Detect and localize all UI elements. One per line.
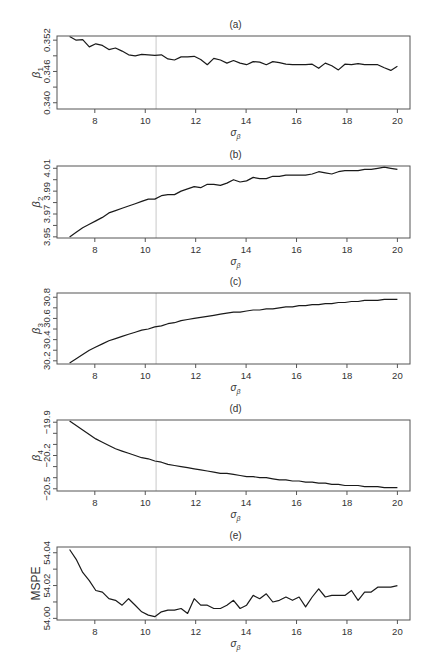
- plot-box: [57, 36, 410, 109]
- x-tick-label: 18: [342, 115, 353, 126]
- x-tick-label: 16: [291, 497, 302, 508]
- x-tick-label: 18: [342, 626, 353, 637]
- x-tick-label: 8: [92, 497, 97, 508]
- x-tick-label: 12: [190, 497, 201, 508]
- panel-title: (e): [229, 530, 241, 541]
- x-tick-label: 14: [241, 497, 252, 508]
- figure-caption: [0, 660, 434, 667]
- data-line: [70, 37, 398, 71]
- panel-e: (e)8101214161820σβ54.0054.0254.04MSPE: [29, 530, 410, 652]
- x-tick-label: 16: [291, 115, 302, 126]
- y-tick-label: 54.00: [41, 606, 52, 630]
- x-tick-label: 20: [392, 244, 403, 255]
- plot-box: [57, 420, 410, 491]
- figure: (a)8101214161820σβ0.3400.3460.352β1(b)81…: [0, 0, 434, 667]
- panel-title: (d): [229, 403, 241, 414]
- y-tick-label: −20.5: [41, 477, 52, 501]
- x-tick-label: 16: [291, 626, 302, 637]
- y-tick-label: 30.8: [41, 288, 52, 307]
- x-axis-label: σβ: [230, 256, 240, 270]
- panel-title: (a): [229, 19, 241, 30]
- x-tick-label: 20: [392, 497, 403, 508]
- x-tick-label: 10: [140, 497, 151, 508]
- y-tick-label: −19.9: [41, 410, 52, 434]
- x-axis-label: σβ: [230, 638, 240, 652]
- y-tick-label: 30.4: [41, 330, 52, 349]
- x-axis-label: σβ: [230, 127, 240, 141]
- x-tick-label: 8: [92, 115, 97, 126]
- plot-box: [57, 166, 410, 238]
- x-tick-label: 16: [291, 244, 302, 255]
- panel-b: (b)8101214161820σβ3.953.973.994.01β2: [30, 149, 410, 270]
- panel-d: (d)8101214161820σβ−20.5−20.2−19.9β4: [30, 403, 410, 523]
- x-tick-label: 10: [140, 626, 151, 637]
- x-tick-label: 10: [140, 370, 151, 381]
- x-tick-label: 12: [190, 115, 201, 126]
- x-tick-label: 14: [241, 115, 252, 126]
- x-tick-label: 18: [342, 244, 353, 255]
- y-axis-label: MSPE: [29, 566, 43, 600]
- x-tick-label: 10: [140, 244, 151, 255]
- x-tick-label: 20: [392, 370, 403, 381]
- y-tick-label: 3.95: [41, 228, 52, 247]
- x-tick-label: 8: [92, 370, 97, 381]
- x-tick-label: 16: [291, 370, 302, 381]
- panel-title: (b): [229, 149, 241, 160]
- x-tick-label: 12: [190, 626, 201, 637]
- panel-c: (c)8101214161820σβ30.230.430.630.8β3: [30, 276, 410, 396]
- x-tick-label: 8: [92, 244, 97, 255]
- x-tick-label: 8: [92, 626, 97, 637]
- y-tick-label: 54.04: [41, 541, 52, 565]
- x-tick-label: 18: [342, 370, 353, 381]
- data-line: [70, 299, 398, 363]
- x-tick-label: 20: [392, 115, 403, 126]
- y-tick-label: 0.340: [41, 91, 52, 115]
- y-tick-label: 3.97: [41, 205, 52, 224]
- y-tick-label: 30.2: [41, 352, 52, 371]
- data-line: [70, 421, 398, 488]
- x-tick-label: 12: [190, 244, 201, 255]
- y-tick-label: 0.352: [41, 28, 52, 52]
- x-axis-label: σβ: [230, 382, 240, 396]
- x-tick-label: 20: [392, 626, 403, 637]
- x-tick-label: 18: [342, 497, 353, 508]
- x-tick-label: 14: [241, 244, 252, 255]
- x-tick-label: 14: [241, 626, 252, 637]
- plot-box: [57, 547, 410, 620]
- panel-a: (a)8101214161820σβ0.3400.3460.352β1: [30, 19, 410, 141]
- plot-box: [57, 293, 410, 364]
- x-tick-label: 12: [190, 370, 201, 381]
- x-tick-label: 10: [140, 115, 151, 126]
- data-line: [70, 167, 398, 237]
- panel-title: (c): [230, 276, 242, 287]
- y-tick-label: 4.01: [41, 159, 52, 178]
- x-tick-label: 14: [241, 370, 252, 381]
- data-line: [70, 550, 398, 617]
- x-axis-label: σβ: [230, 509, 240, 523]
